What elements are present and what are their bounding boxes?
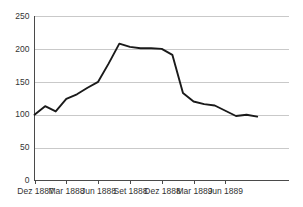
- chart-canvas: 050100150200250 Dez 1887Mar 1888Jun 1888…: [0, 0, 303, 207]
- x-axis-tick-label: Jun 1888: [81, 186, 116, 196]
- y-axis-tick-label: 250: [15, 11, 29, 21]
- chart-background: [0, 0, 303, 207]
- y-axis-tick-label: 150: [15, 77, 29, 87]
- y-axis-tick-label: 0: [25, 175, 30, 185]
- x-axis-tick-label: Dez 1888: [144, 186, 181, 196]
- x-axis-tick-label: Jun 1889: [208, 186, 243, 196]
- x-axis-tick-labels: Dez 1887Mar 1888Jun 1888Set 1888Dez 1888…: [17, 186, 243, 196]
- line-chart: 050100150200250 Dez 1887Mar 1888Jun 1888…: [0, 0, 303, 207]
- y-axis-tick-label: 50: [20, 142, 30, 152]
- y-axis-tick-label: 100: [15, 109, 29, 119]
- y-axis-tick-label: 200: [15, 44, 29, 54]
- x-axis-tick-label: Set 1888: [113, 186, 147, 196]
- x-axis-tick-label: Mar 1888: [49, 186, 85, 196]
